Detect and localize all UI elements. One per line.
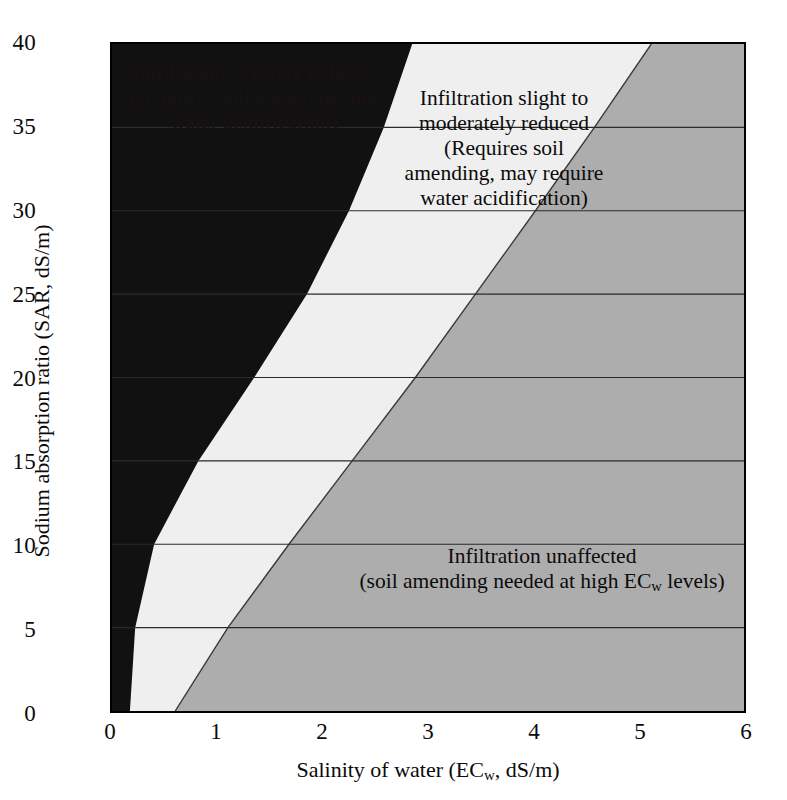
x-axis-title-suffix: , dS/m): [495, 757, 560, 782]
x-tick-1: 1: [186, 720, 246, 743]
x-tick-6: 6: [716, 720, 776, 743]
x-tick-4: 4: [504, 720, 564, 743]
ecw-subscript: w: [484, 767, 495, 783]
x-tick-0: 0: [80, 720, 140, 743]
y-tick-40: 40: [0, 31, 36, 54]
y-axis-title-wrapper: Sodium absorption ratio (SAR, dS/m): [29, 56, 55, 727]
x-tick-5: 5: [610, 720, 670, 743]
x-axis-title-prefix: Salinity of water (EC: [296, 757, 484, 782]
y-axis-title: Sodium absorption ratio (SAR, dS/m): [29, 224, 54, 557]
x-tick-2: 2: [292, 720, 352, 743]
plot-area: Infiltration severely reduced (Requires …: [110, 42, 746, 713]
infiltration-chart-figure: Infiltration severely reduced (Requires …: [0, 0, 787, 800]
region-shading-svg: [112, 44, 744, 711]
x-tick-3: 3: [398, 720, 458, 743]
x-axis-title: Salinity of water (ECw, dS/m): [110, 757, 746, 784]
